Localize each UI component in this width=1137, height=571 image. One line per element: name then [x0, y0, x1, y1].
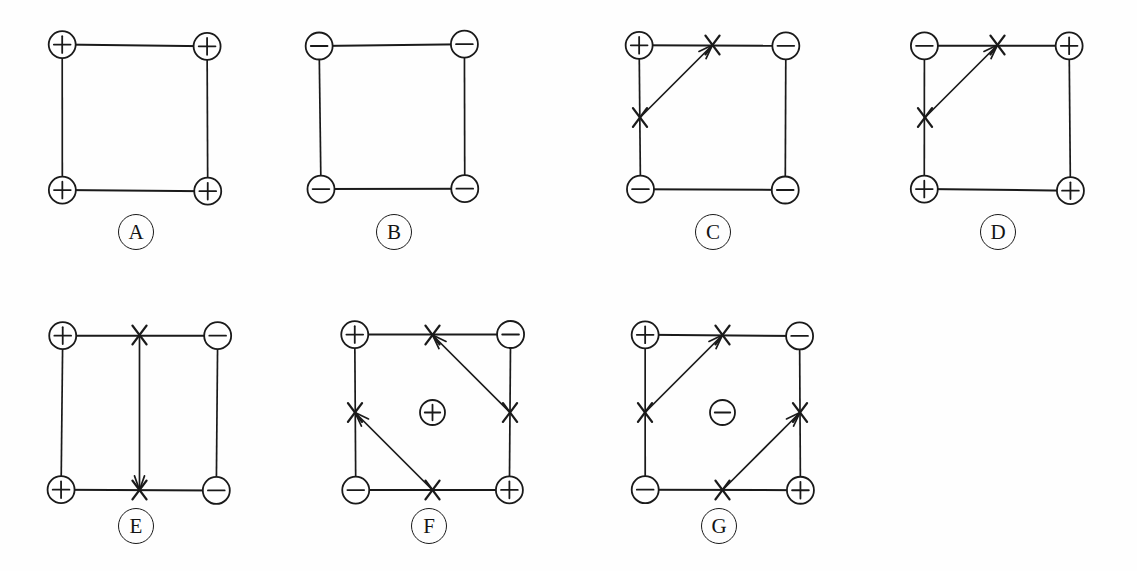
corner-charge-top-right: [194, 33, 221, 60]
panel-label-a: A: [118, 214, 154, 250]
edge-left: [319, 46, 321, 189]
edge-top: [319, 44, 464, 46]
displacement-arrow-1: [925, 45, 998, 118]
corner-charge-top-right: [1056, 32, 1083, 59]
diagram-panel-a: [28, 11, 241, 224]
diagram-panel-d: [891, 11, 1104, 224]
corner-charge-top-left: [49, 31, 76, 58]
corner-charge-bottom-left: [342, 477, 369, 504]
figure-canvas: ABCDEFG: [0, 0, 1137, 571]
corner-charge-top-left: [626, 32, 653, 59]
panel-label-g: G: [701, 508, 737, 544]
corner-charge-top-left: [911, 32, 938, 59]
corner-charge-bottom-right: [194, 178, 221, 205]
corner-charge-bottom-left: [632, 476, 659, 503]
diagram-panel-f: [321, 301, 544, 524]
panel-label-f: F: [411, 508, 447, 544]
corner-charge-bottom-left: [627, 176, 654, 203]
corner-charge-top-left: [341, 321, 368, 348]
displacement-arrow-2: [723, 413, 801, 491]
diagram-panel-b: [286, 11, 499, 224]
corner-charge-top-right: [497, 321, 524, 348]
displacement-arrow-1: [134, 335, 144, 490]
corner-charge-top-left: [49, 322, 76, 349]
displacement-arrow-1: [640, 45, 713, 118]
edge-left: [61, 336, 63, 490]
corner-charge-top-right: [204, 322, 231, 349]
edge-bottom: [924, 189, 1070, 191]
corner-charge-top-left: [306, 32, 333, 59]
panel-label-c: C: [695, 214, 731, 250]
edge-right: [785, 46, 786, 190]
corner-charge-bottom-left: [911, 176, 938, 203]
diagram-panel-e: [28, 301, 251, 524]
corner-charge-top-right: [772, 32, 799, 59]
panel-label-d: D: [980, 214, 1016, 250]
corner-charge-top-right: [451, 31, 478, 58]
corner-charge-top-right: [786, 322, 813, 349]
displacement-arrow-1: [433, 335, 511, 413]
panel-label-e: E: [118, 508, 154, 544]
corner-charge-bottom-right: [772, 176, 799, 203]
edge-bottom: [62, 190, 207, 191]
edge-right: [207, 46, 208, 191]
diagram-panel-c: [606, 11, 819, 224]
corner-charge-bottom-left: [307, 176, 334, 203]
corner-charge-bottom-left: [49, 177, 76, 204]
corner-charge-bottom-right: [1057, 177, 1084, 204]
corner-charge-bottom-right: [203, 477, 230, 504]
displacement-arrow-2: [355, 413, 433, 491]
corner-charge-bottom-right: [787, 477, 814, 504]
displacement-arrow-1: [645, 335, 723, 413]
diagram-panel-g: [611, 301, 834, 524]
panel-label-b: B: [376, 214, 412, 250]
edge-right: [216, 336, 217, 491]
edge-top: [62, 45, 207, 47]
corner-charge-bottom-right: [496, 476, 523, 503]
center-charge: [420, 400, 445, 425]
corner-charge-bottom-left: [48, 476, 75, 503]
edge-right: [1069, 46, 1070, 191]
center-charge: [710, 400, 735, 425]
edge-bottom: [640, 189, 785, 190]
corner-charge-bottom-right: [451, 175, 478, 202]
corner-charge-top-left: [632, 321, 659, 348]
